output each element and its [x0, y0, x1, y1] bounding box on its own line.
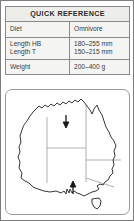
table-cell-label: Length HB Length T: [6, 38, 70, 59]
tasmania-outline: [92, 198, 101, 209]
australia-coastline: [18, 99, 116, 196]
table-row: Diet Omnivore: [6, 22, 129, 38]
quick-reference-title: QUICK REFERENCE: [6, 7, 129, 22]
distribution-map-box: [5, 89, 130, 215]
state-border-lines: [47, 105, 121, 187]
weight-value: 200–400 g: [74, 63, 129, 72]
australia-map-icon: [6, 90, 129, 214]
table-cell-label: Diet: [6, 22, 70, 37]
diet-label: Diet: [10, 25, 69, 34]
table-cell-label: Weight: [6, 60, 70, 75]
diet-value: Omnivore: [74, 25, 129, 34]
length-t-value: 150–215 mm: [74, 48, 129, 57]
quick-reference-panel: QUICK REFERENCE Diet Omnivore Length HB …: [0, 0, 134, 221]
length-hb-label: Length HB: [10, 40, 69, 49]
quick-reference-table: QUICK REFERENCE Diet Omnivore Length HB …: [5, 6, 130, 75]
table-cell-value: 180–255 mm 150–215 mm: [70, 38, 129, 59]
length-t-label: Length T: [10, 48, 69, 57]
weight-label: Weight: [10, 63, 69, 72]
length-hb-value: 180–255 mm: [74, 40, 129, 49]
table-row: Weight 200–400 g: [6, 60, 129, 75]
arrow-down-icon: [63, 115, 69, 128]
table-cell-value: Omnivore: [70, 22, 129, 37]
table-row: Length HB Length T 180–255 mm 150–215 mm: [6, 38, 129, 60]
table-cell-value: 200–400 g: [70, 60, 129, 75]
